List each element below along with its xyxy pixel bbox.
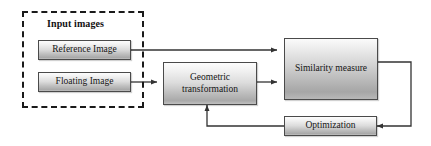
node-floating-image[interactable]: Floating Image — [38, 72, 131, 92]
node-geometric-transformation-label: Geometric transformation — [164, 72, 256, 96]
node-similarity-measure-label: Similarity measure — [292, 63, 370, 75]
input-images-group-label: Input images — [47, 18, 104, 29]
node-similarity-measure[interactable]: Similarity measure — [284, 38, 378, 100]
node-geometric-transformation[interactable]: Geometric transformation — [163, 62, 257, 105]
node-optimization-label: Optimization — [302, 120, 358, 132]
node-reference-image[interactable]: Reference Image — [38, 40, 131, 60]
node-reference-image-label: Reference Image — [49, 44, 120, 56]
node-floating-image-label: Floating Image — [53, 76, 117, 88]
edge-optimization-to-geometric — [207, 105, 284, 126]
edge-similarity-to-optimization — [377, 62, 411, 126]
node-optimization[interactable]: Optimization — [284, 116, 377, 136]
diagram-canvas: Input images Reference Image Floating Im… — [0, 0, 431, 146]
